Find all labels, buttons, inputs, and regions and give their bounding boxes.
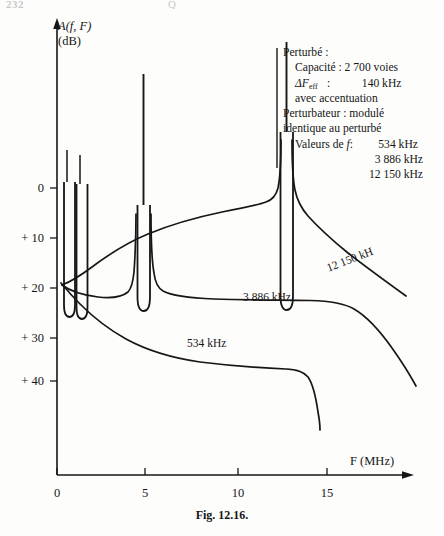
x-tick-label-0: 0 — [42, 486, 72, 501]
y-tick-label-30: + 30 — [4, 331, 44, 346]
y-tick-label-20: + 20 — [4, 281, 44, 296]
annotation-capacite-value: 2 700 voies — [345, 61, 398, 74]
x-tick-label-15: 15 — [312, 486, 342, 501]
annotation-line-capacite: Capacité : 2 700 voies — [283, 60, 441, 75]
annotation-deltafeff-separator: : — [321, 76, 337, 91]
y-axis-unit: (dB) — [58, 35, 81, 48]
y-tick-label-40: + 40 — [4, 374, 44, 389]
annotation-line-deltafeff: ΔFeff : 140 kHz — [283, 76, 441, 91]
annotation-line-accentuation: avec accentuation — [283, 91, 441, 106]
annotation-line-perturbe: Perturbé : — [283, 45, 441, 60]
annotation-line-valeur-2: 3 886 kHz — [283, 152, 441, 167]
y-axis-unit-text: (dB) — [58, 34, 81, 48]
y-axis-title-text: A(f, F) — [58, 19, 91, 33]
y-tick-label-0: 0 — [4, 181, 44, 196]
annotation-line-valeurs: Valeurs de f: 534 kHz — [283, 137, 441, 152]
annotation-deltafeff-subscript: eff — [309, 82, 318, 91]
y-tick-label-10: + 10 — [4, 231, 44, 246]
annotation-line-identique: identique au perturbé — [283, 121, 441, 136]
curve-label-3886khz: 3 886 kHz — [243, 291, 291, 303]
spike-3886-foot — [138, 205, 151, 311]
figure-page: 232 Q — [0, 0, 444, 536]
annotation-valeurs-value-3: 12 150 kHz — [353, 167, 423, 182]
x-axis-title: F (MHz) — [350, 455, 394, 468]
x-tick-label-10: 10 — [223, 486, 253, 501]
annotation-deltafeff-value: 140 kHz — [339, 76, 401, 91]
annotation-block: Perturbé : Capacité : 2 700 voies ΔFeff … — [283, 45, 441, 183]
annotation-valeurs-value-1: 534 kHz — [356, 137, 418, 152]
x-tick-label-5: 5 — [130, 486, 160, 501]
annotation-line-valeur-3: 12 150 kHz — [283, 167, 441, 182]
annotation-valeurs-label: Valeurs de — [295, 138, 344, 151]
annotation-capacite-label: Capacité : — [295, 61, 342, 74]
curve-label-534khz: 534 kHz — [187, 337, 226, 349]
y-axis-title: A(f, F) — [58, 20, 91, 33]
annotation-line-perturbateur: Perturbateur : modulé — [283, 106, 441, 121]
curve-3886khz — [62, 214, 416, 386]
annotation-valeurs-separator: : — [350, 138, 353, 151]
figure-caption: Fig. 12.16. — [0, 508, 444, 523]
x-axis-ticks — [57, 468, 327, 475]
x-axis-title-text: F (MHz) — [350, 454, 394, 468]
spike-origin-2 — [77, 184, 88, 319]
x-axis-arrow — [402, 471, 414, 479]
y-axis-ticks — [50, 188, 57, 381]
annotation-valeurs-value-2: 3 886 kHz — [361, 152, 423, 167]
annotation-deltafeff-label: ΔF — [295, 77, 309, 90]
